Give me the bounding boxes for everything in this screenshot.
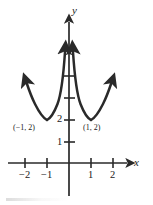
x-axis-label: x (134, 157, 139, 168)
curve-left-branch (27, 84, 47, 120)
y-tick-label-1: 1 (57, 137, 62, 148)
x-tick-label-1: 1 (88, 170, 93, 181)
y-tick-label-2: 2 (57, 114, 62, 125)
math-figure: x y −2 −1 1 2 1 2 (−1, 2) (1, 2) (0, 0, 153, 205)
curve-right-inner (73, 52, 91, 120)
y-axis-label: y (72, 5, 77, 16)
x-tick-label-2: 2 (110, 170, 115, 181)
y-axis (64, 22, 75, 196)
point-label-left: (−1, 2) (13, 124, 35, 132)
x-tick-label-neg2: −2 (19, 170, 30, 181)
x-axis (8, 158, 127, 168)
x-tick-label-neg1: −1 (41, 170, 52, 181)
curve-right-branch (91, 84, 111, 120)
curve-left-inner (47, 52, 65, 120)
caption-artifact (6, 198, 68, 201)
point-label-right: (1, 2) (83, 124, 100, 132)
